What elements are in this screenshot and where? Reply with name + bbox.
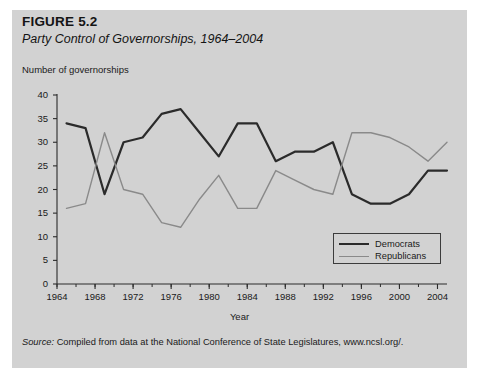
series-line-republicans: [67, 133, 447, 228]
source-text: Compiled from data at the National Confe…: [57, 337, 404, 347]
legend-swatch-republicans-icon: [339, 256, 369, 257]
legend-label-republicans: Republicans: [375, 251, 426, 261]
x-tick-label: 1992: [303, 291, 343, 302]
legend-item-republicans: Republicans: [339, 250, 426, 262]
x-axis-title: Year: [0, 311, 479, 322]
y-tick-label: 40: [26, 89, 48, 100]
source-note: Source: Compiled from data at the Nation…: [22, 336, 452, 348]
x-tick-label: 2000: [379, 291, 419, 302]
legend-label-democrats: Democrats: [375, 239, 420, 249]
x-tick-label: 1980: [189, 291, 229, 302]
x-tick-label: 1996: [341, 291, 381, 302]
x-tick-label: 1976: [151, 291, 191, 302]
x-tick-label: 1984: [227, 291, 267, 302]
legend-swatch-democrats-icon: [339, 243, 369, 245]
x-tick-label: 1988: [265, 291, 305, 302]
x-tick-label: 1968: [75, 291, 115, 302]
x-tick-label: 1972: [113, 291, 153, 302]
y-tick-label: 35: [26, 113, 48, 124]
y-tick-label: 15: [26, 207, 48, 218]
chart-legend: Democrats Republicans: [333, 233, 441, 264]
legend-item-democrats: Democrats: [339, 238, 420, 250]
source-label: Source:: [22, 337, 54, 347]
y-tick-label: 30: [26, 136, 48, 147]
y-tick-label: 0: [26, 278, 48, 289]
x-tick-label: 2004: [417, 291, 457, 302]
chart-plot-area: [0, 0, 479, 379]
chart-svg: [0, 0, 479, 379]
y-tick-label: 10: [26, 231, 48, 242]
y-tick-label: 20: [26, 184, 48, 195]
y-tick-label: 25: [26, 160, 48, 171]
x-tick-label: 1964: [37, 291, 77, 302]
y-tick-label: 5: [26, 254, 48, 265]
